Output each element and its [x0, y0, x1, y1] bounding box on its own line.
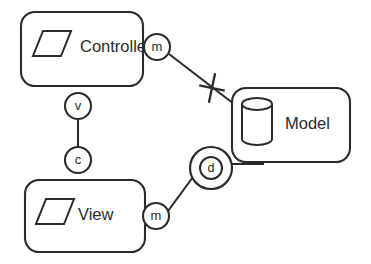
port-view-c[interactable]: c — [65, 147, 91, 173]
port-controller-v[interactable]: v — [65, 93, 91, 119]
view-label: View — [78, 205, 114, 223]
connector-controller-to-model[interactable] — [169, 54, 234, 104]
socket-label-d: d — [208, 161, 215, 175]
socket-model-d[interactable]: d — [190, 147, 232, 189]
connector-view-to-model-socket[interactable] — [168, 177, 193, 211]
blocked-link-cross-icon — [196, 71, 228, 106]
port-controller-m[interactable]: m — [144, 34, 170, 60]
component-controller[interactable]: Controller — [21, 12, 152, 86]
diagram-canvas: Controller Model View m v — [0, 0, 371, 264]
model-label: Model — [285, 114, 330, 132]
port-label-c: c — [75, 152, 82, 167]
port-label-m: m — [152, 39, 163, 54]
component-diagram: Controller Model View m v — [0, 0, 371, 264]
port-view-m[interactable]: m — [143, 203, 169, 229]
controller-label: Controller — [80, 37, 152, 55]
port-label-v: v — [75, 98, 82, 113]
cylinder-top — [242, 98, 272, 110]
port-label-m: m — [151, 208, 162, 223]
component-model[interactable]: Model — [232, 88, 350, 162]
component-view[interactable]: View — [25, 180, 145, 252]
cylinder-icon — [242, 98, 272, 145]
